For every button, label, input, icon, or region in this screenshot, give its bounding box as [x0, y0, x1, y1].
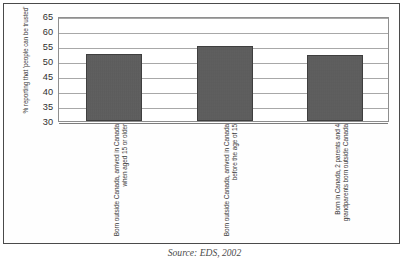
- y-tick-label: 65: [29, 12, 53, 22]
- y-axis-tick-labels: 3035404550556065: [29, 12, 53, 124]
- category-label: Born outside Canada, arrived in Canada b…: [223, 124, 239, 240]
- category-label: Born outside Canada, arrived in Canada w…: [113, 124, 129, 240]
- category-label-slot: Born outside Canada, arrived in Canada w…: [58, 124, 168, 242]
- category-label: Born in Canada, 2 parents and 4 grandpar…: [334, 124, 350, 240]
- category-label-slot: Born outside Canada, arrived in Canada b…: [168, 124, 278, 242]
- y-tick-label: 50: [29, 57, 53, 67]
- y-tick-label: 40: [29, 87, 53, 97]
- y-tick-label: 45: [29, 72, 53, 82]
- plot-area: [58, 17, 389, 122]
- bar[interactable]: [197, 46, 253, 121]
- y-tick-label: 30: [29, 117, 53, 127]
- source-caption: Source: EDS, 2002: [0, 247, 409, 258]
- bars-layer: [59, 18, 388, 121]
- x-axis-category-labels: Born outside Canada, arrived in Canada w…: [58, 124, 389, 244]
- category-label-slot: Born in Canada, 2 parents and 4 grandpar…: [279, 124, 389, 242]
- bar[interactable]: [307, 55, 363, 121]
- y-tick-label: 60: [29, 27, 53, 37]
- figure-frame: % reporting that 'people can be trusted'…: [3, 3, 400, 244]
- bar[interactable]: [86, 54, 142, 122]
- y-tick-label: 35: [29, 102, 53, 112]
- y-tick-label: 55: [29, 42, 53, 52]
